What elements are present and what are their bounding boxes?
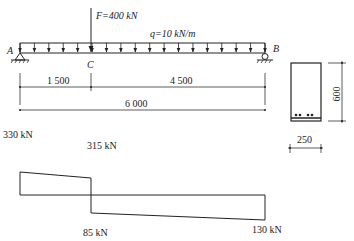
dim-total: 6 000 <box>125 98 148 109</box>
beam-diagram: F=400 kN q=10 kN/m A B C 1 500 4 500 6 0… <box>0 0 354 241</box>
udl-arrows <box>18 43 267 53</box>
cross-section <box>291 63 321 121</box>
section-width-dim <box>288 144 323 153</box>
support-B-label: B <box>273 43 279 54</box>
beam <box>20 43 265 53</box>
shear-label-left: 330 kN <box>3 129 33 140</box>
roller-support-B <box>257 54 273 64</box>
shear-diagram <box>20 172 265 220</box>
shear-label-right: 130 kN <box>252 224 282 235</box>
shear-label-c-bottom: 85 kN <box>83 227 108 238</box>
section-height-label: 600 <box>331 87 342 102</box>
support-A-label: A <box>6 45 14 56</box>
udl-label: q=10 kN/m <box>150 28 195 39</box>
section-width-label: 250 <box>297 134 312 145</box>
pin-support-A <box>11 53 29 63</box>
point-load-arrow <box>89 8 94 52</box>
dim-AC: 1 500 <box>47 75 70 86</box>
dim-CB: 4 500 <box>170 75 193 86</box>
shear-label-c-top: 315 kN <box>87 140 117 151</box>
point-load-label: F=400 kN <box>95 10 139 21</box>
point-C-label: C <box>87 59 94 70</box>
